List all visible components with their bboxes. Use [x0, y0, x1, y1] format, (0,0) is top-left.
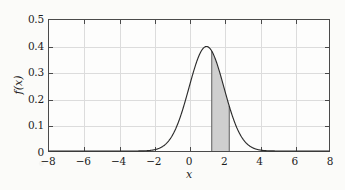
plot-area — [48, 19, 330, 152]
x-tick-label: 4 — [256, 155, 262, 167]
shaded-area-region — [212, 51, 230, 151]
x-tick-label: −6 — [76, 155, 91, 167]
y-tick-label: 0.2 — [28, 93, 44, 105]
x-tick-label: 2 — [221, 155, 227, 167]
y-tick-label: 0.4 — [28, 40, 44, 52]
x-axis-title: x — [186, 168, 192, 181]
x-tick-label: −4 — [111, 155, 126, 167]
x-tick-label: 8 — [327, 155, 333, 167]
chart-plot-svg — [49, 20, 329, 151]
x-tick-label: 0 — [186, 155, 192, 167]
figure-canvas: f(x) x 0.5 0.4 0.3 0.2 0.1 0 −8 −6 −4 −2… — [0, 0, 345, 190]
y-tick-label: 0.3 — [28, 66, 44, 78]
x-tick-label: 6 — [292, 155, 298, 167]
y-axis-title: f(x) — [12, 76, 25, 95]
normal-distribution-curve — [49, 46, 329, 151]
x-tick-label: −8 — [40, 155, 55, 167]
y-tick-label: 0.1 — [28, 119, 44, 131]
y-tick-label: 0.5 — [28, 13, 44, 25]
x-tick-label: −2 — [146, 155, 161, 167]
